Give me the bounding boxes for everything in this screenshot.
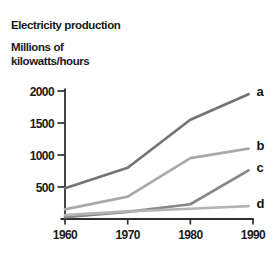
y-tick-label: 1000: [30, 149, 55, 163]
x-tick-label: 1960: [53, 228, 78, 242]
series-label-d: d: [257, 196, 265, 211]
series-label-c: c: [257, 160, 264, 175]
chart-panel: Electricity production Millions of kilow…: [0, 0, 273, 256]
x-tick-label: 1980: [178, 228, 203, 242]
series-line-a: [65, 94, 249, 188]
y-tick-label: 1500: [30, 117, 55, 131]
y-tick-label: 500: [36, 181, 55, 195]
electricity-chart: 5001000150020001960197019801990abcd: [0, 0, 273, 256]
series-label-b: b: [257, 138, 265, 153]
x-tick-label: 1970: [116, 228, 141, 242]
y-tick-label: 2000: [30, 85, 55, 99]
series-label-a: a: [257, 84, 265, 99]
x-tick-label: 1990: [241, 228, 266, 242]
